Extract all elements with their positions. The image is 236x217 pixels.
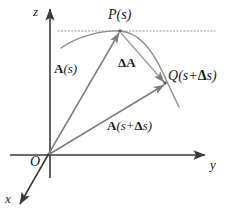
point-Q-marker bbox=[163, 81, 166, 84]
vector-diagram-figure: z y x O P(s) Q(s+Δs) A(s) ΔA A(s+Δs) bbox=[0, 0, 236, 217]
vector-label-A-sds-open: (s+ bbox=[116, 118, 134, 133]
vector-label-A-s-plus-ds: A(s+Δs) bbox=[107, 119, 152, 132]
axis-label-y: y bbox=[210, 158, 216, 171]
point-label-Q: Q(s+Δs) bbox=[168, 69, 217, 83]
point-label-Q-arg: (s+ bbox=[178, 68, 198, 83]
vector-A-s bbox=[48, 33, 119, 155]
point-label-Q-arg2: s) bbox=[206, 68, 216, 83]
point-label-P-base: P bbox=[108, 7, 117, 22]
origin-marker bbox=[47, 154, 50, 157]
diagram-canvas bbox=[0, 0, 236, 217]
point-P-marker bbox=[118, 29, 121, 32]
vector-label-A-s-bold: A bbox=[54, 61, 63, 76]
vector-label-A-s: A(s) bbox=[54, 62, 77, 75]
axis-label-x: x bbox=[5, 192, 11, 205]
vector-label-A-s-rest: (s) bbox=[63, 61, 77, 76]
point-label-P: P(s) bbox=[108, 8, 131, 22]
axis-label-z: z bbox=[33, 5, 38, 18]
vector-label-A-sds-bold: A bbox=[107, 118, 116, 133]
vector-label-A-sds-delta: Δ bbox=[135, 118, 143, 133]
vector-label-delta-A: ΔA bbox=[118, 56, 136, 69]
point-label-P-arg: (s) bbox=[117, 7, 132, 22]
point-label-Q-base: Q bbox=[168, 68, 178, 83]
origin-label: O bbox=[30, 155, 40, 169]
vector-label-A-sds-close: s) bbox=[143, 118, 152, 133]
